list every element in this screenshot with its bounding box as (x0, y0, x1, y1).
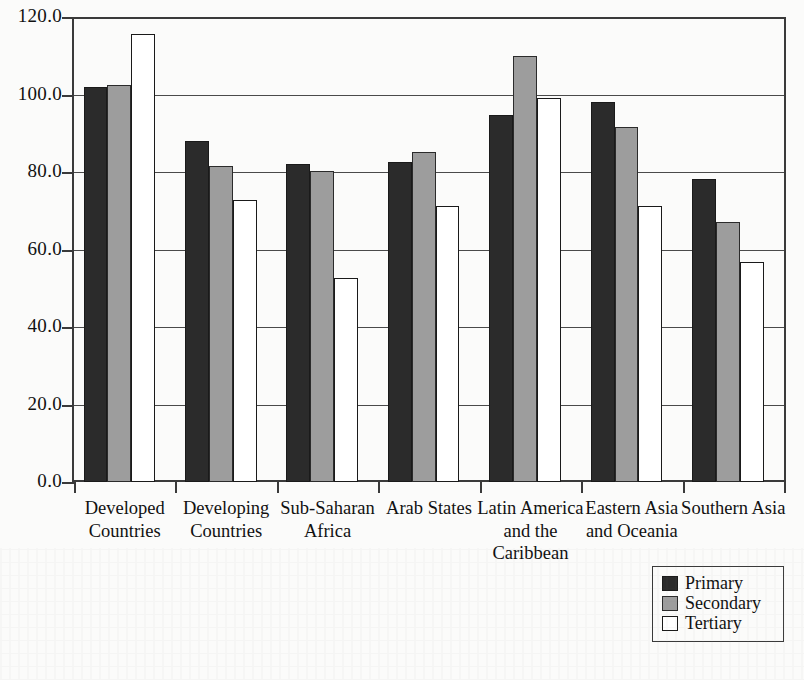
legend: PrimarySecondaryTertiary (652, 566, 784, 642)
bar-primary (692, 179, 716, 482)
x-axis-label-line: Southern Asia (669, 497, 798, 520)
x-tick-mark (74, 482, 76, 493)
x-tick-mark (277, 482, 279, 493)
x-axis-label-line: and Oceania (567, 520, 696, 543)
legend-label: Primary (685, 574, 743, 593)
bar-primary (388, 162, 412, 482)
bar-primary (591, 102, 615, 482)
bar-secondary (107, 85, 131, 482)
x-tick-mark (581, 482, 583, 493)
bar-group (683, 19, 784, 482)
legend-item-primary: Primary (662, 574, 774, 593)
bar-group (378, 19, 479, 482)
y-tick-label: 80.0 (0, 161, 62, 180)
bar-primary (185, 141, 209, 482)
bar-secondary (513, 56, 537, 482)
bar-primary (84, 87, 108, 482)
x-axis-label-line: Africa (263, 520, 392, 543)
x-axis-label: Southern Asia (669, 497, 798, 520)
legend-swatch-secondary (662, 596, 678, 611)
y-tick-mark (62, 482, 74, 484)
legend-swatch-tertiary (662, 616, 678, 631)
legend-label: Tertiary (685, 614, 742, 633)
bar-tertiary (436, 206, 460, 482)
bar-secondary (209, 166, 233, 482)
legend-swatch-primary (662, 576, 678, 591)
bars-layer (74, 19, 784, 482)
bar-secondary (716, 222, 740, 482)
bar-tertiary (131, 34, 155, 482)
legend-item-secondary: Secondary (662, 594, 774, 613)
bar-tertiary (638, 206, 662, 482)
bar-tertiary (233, 200, 257, 482)
y-tick-label: 40.0 (0, 316, 62, 335)
legend-item-tertiary: Tertiary (662, 614, 774, 633)
y-tick-label: 100.0 (0, 84, 62, 103)
bar-primary (286, 164, 310, 482)
bar-chart: 0.020.040.060.080.0100.0120.0 DevelopedC… (0, 0, 804, 680)
x-tick-mark (480, 482, 482, 493)
bar-tertiary (740, 262, 764, 482)
bar-secondary (615, 127, 639, 482)
y-tick-label: 20.0 (0, 394, 62, 413)
bar-tertiary (334, 278, 358, 482)
y-tick-label: 120.0 (0, 6, 62, 25)
bar-tertiary (537, 98, 561, 482)
bar-secondary (412, 152, 436, 482)
x-tick-mark (175, 482, 177, 493)
bar-group (277, 19, 378, 482)
bar-primary (489, 115, 513, 482)
x-tick-mark (378, 482, 380, 493)
bar-group (175, 19, 276, 482)
x-tick-mark (784, 482, 786, 493)
bar-group (581, 19, 682, 482)
bar-secondary (310, 171, 334, 482)
y-tick-label: 0.0 (0, 471, 62, 490)
x-axis-label-line: Caribbean (466, 542, 595, 565)
y-tick-label: 60.0 (0, 239, 62, 258)
bar-group (74, 19, 175, 482)
legend-label: Secondary (685, 594, 761, 613)
bar-group (480, 19, 581, 482)
x-tick-mark (683, 482, 685, 493)
